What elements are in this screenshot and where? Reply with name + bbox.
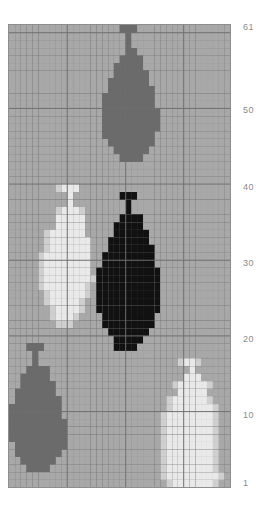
- row-tick-20: 20: [243, 335, 254, 344]
- row-tick-10: 10: [243, 411, 254, 420]
- row-tick-30: 30: [243, 259, 254, 268]
- row-tick-40: 40: [243, 183, 254, 192]
- row-number-axis: 6150403020101: [231, 24, 273, 488]
- pattern-chart: 6150403020101: [0, 0, 273, 505]
- row-tick-50: 50: [243, 106, 254, 115]
- row-tick-1: 1: [243, 479, 249, 488]
- pattern-grid-canvas[interactable]: [9, 25, 230, 487]
- row-tick-61: 61: [243, 23, 254, 32]
- pattern-grid[interactable]: [8, 24, 231, 488]
